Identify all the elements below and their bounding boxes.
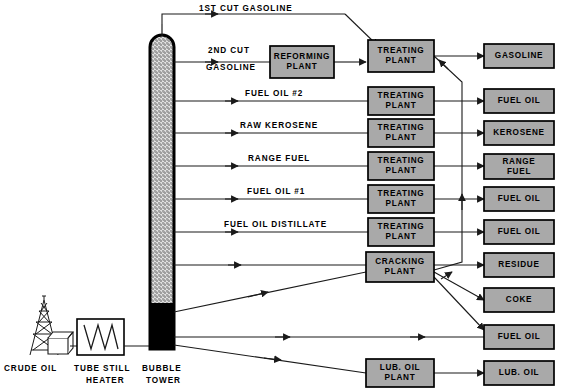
box-product-fuel-oil-3[interactable] (484, 220, 554, 244)
box-product-residue[interactable] (484, 253, 554, 277)
label-raw-kerosene: RAW KEROSENE (240, 121, 318, 131)
label-2nd-cut: 2ND CUT (208, 46, 250, 56)
box-treating-plant-5[interactable] (368, 185, 434, 213)
flow-cracking-to-coke (434, 272, 484, 300)
flow-cracking-to-fueloil (434, 277, 484, 330)
box-treating-plant-3[interactable] (368, 119, 434, 147)
box-product-lub-oil[interactable] (484, 361, 554, 385)
product-box-group (484, 44, 554, 385)
label-2nd-cut-gasoline: GASOLINE (206, 63, 256, 73)
flow-cracked-gasoline-riser (434, 56, 462, 270)
label-tube-still: TUBE STILL (74, 364, 130, 374)
label-fuel-oil-2: FUEL OIL #2 (245, 89, 303, 99)
box-lub-oil-plant[interactable] (366, 359, 434, 387)
wellhead-tank-icon (48, 332, 73, 354)
arrow-seg-hidden (255, 327, 272, 331)
box-product-gasoline[interactable] (484, 44, 554, 68)
box-product-fuel-oil-1[interactable] (484, 89, 554, 113)
label-tower: TOWER (146, 376, 181, 386)
label-heater: HEATER (86, 376, 124, 386)
box-cracking-plant[interactable] (366, 252, 434, 282)
box-product-kerosene[interactable] (484, 121, 554, 145)
label-fuel-oil-1: FUEL OIL #1 (247, 187, 305, 197)
arrow-bottoms-to-cracking (248, 292, 268, 297)
label-fuel-oil-distillate: FUEL OIL DISTILLATE (224, 220, 327, 230)
label-bubble: BUBBLE (142, 364, 182, 374)
box-reforming-plant[interactable] (270, 46, 334, 78)
arrow-riser-into-treating1 (439, 60, 448, 69)
flow-bottoms-to-cracking (174, 272, 366, 312)
box-product-coke[interactable] (484, 288, 554, 312)
box-treating-plant-2[interactable] (368, 87, 434, 115)
label-1st-cut-gasoline: 1ST CUT GASOLINE (199, 4, 293, 14)
box-treating-plant-6[interactable] (368, 218, 434, 246)
bubble-tower-icon (150, 24, 174, 349)
flow-1st-cut-gasoline-run (162, 14, 345, 24)
box-treating-plant-1[interactable] (368, 40, 434, 72)
box-product-fuel-oil-4[interactable] (484, 325, 554, 349)
box-treating-plant-4[interactable] (368, 152, 434, 180)
arrow-cracking-into-riser (441, 272, 452, 279)
box-product-range-fuel[interactable] (484, 154, 554, 179)
refinery-flow-diagram: 1ST CUT GASOLINE 2ND CUT GASOLINE FUEL O… (0, 0, 572, 392)
tube-still-heater-icon (77, 319, 124, 355)
label-crude-oil: CRUDE OIL (4, 364, 57, 374)
label-range-fuel: RANGE FUEL (248, 154, 310, 164)
box-product-fuel-oil-2[interactable] (484, 187, 554, 211)
